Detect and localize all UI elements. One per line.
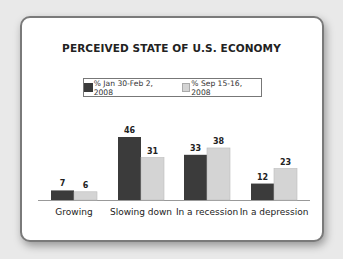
bar-growing-series-2 [74, 192, 97, 200]
x-tick-label: In a depression [240, 207, 309, 217]
x-tick-label: In a recession [176, 207, 238, 217]
data-label: 23 [280, 158, 291, 167]
data-label: 12 [257, 173, 268, 182]
bar-in-a-recession-series-1 [184, 155, 207, 200]
data-label: 46 [124, 126, 136, 135]
data-label: 33 [190, 144, 201, 153]
bar-in-a-depression-series-1 [251, 184, 274, 200]
x-tick-label: Growing [55, 207, 92, 217]
data-label: 31 [147, 147, 159, 156]
bar-slowing-down-series-2 [141, 158, 164, 200]
bar-slowing-down-series-1 [118, 137, 141, 200]
data-label: 7 [60, 179, 66, 188]
bar-growing-series-1 [51, 190, 74, 200]
plot-area: 76Growing4631Slowing down3338In a recess… [0, 0, 343, 259]
bar-in-a-recession-series-2 [207, 148, 230, 200]
x-tick-label: Slowing down [110, 207, 172, 217]
bar-in-a-depression-series-2 [274, 169, 297, 201]
data-label: 38 [213, 137, 225, 146]
data-label: 6 [83, 181, 89, 190]
